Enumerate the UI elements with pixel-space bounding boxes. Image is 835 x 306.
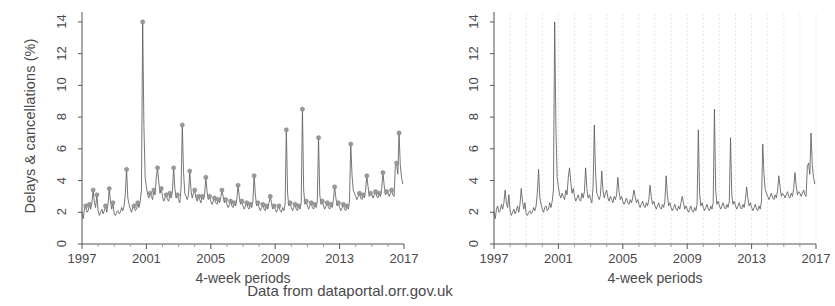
y-tick-label: 10 [466,72,481,98]
y-axis-title: Delays & cancellations (%) [22,16,38,236]
y-tick-label: 4 [466,167,481,193]
y-tick-label: 8 [466,104,481,130]
x-tick-label: 2017 [797,251,835,266]
y-tick-label: 6 [54,135,69,161]
x-tick-label: 2009 [668,251,706,266]
x-tick-label: 2013 [321,251,359,266]
y-tick-label: 4 [54,167,69,193]
chart-panel-left: Delays & cancellations (%) 4-week period… [0,0,412,306]
y-tick-label: 6 [466,135,481,161]
y-tick-label: 12 [466,40,481,66]
figure-caption: Data from dataportal.orr.gov.uk [0,282,700,299]
x-tick-label: 2005 [604,251,642,266]
x-tick-label: 2009 [256,251,294,266]
x-tick-label: 2001 [539,251,577,266]
y-tick-label: 14 [54,8,69,34]
chart-panel-right: 4-week periods 0246810121419972001200520… [412,0,824,306]
x-tick-label: 1997 [63,251,101,266]
x-tick-label: 2013 [733,251,771,266]
y-tick-label: 10 [54,72,69,98]
y-tick-label: 14 [466,8,481,34]
x-tick-label: 2001 [127,251,165,266]
y-tick-label: 12 [54,40,69,66]
x-tick-label: 2005 [192,251,230,266]
y-tick-label: 2 [466,199,481,225]
y-tick-label: 8 [54,104,69,130]
x-tick-label: 1997 [475,251,513,266]
y-tick-label: 2 [54,199,69,225]
